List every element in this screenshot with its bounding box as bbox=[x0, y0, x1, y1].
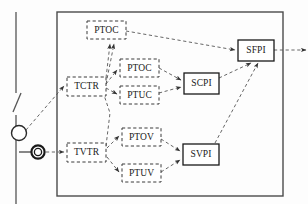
block-diagram-canvas: PTOC TCTR PTOC PTUC TVTR PTOV PTUV bbox=[0, 0, 308, 204]
node-tvtr[interactable]: TVTR bbox=[67, 143, 106, 162]
current-transformer-symbol bbox=[12, 126, 27, 141]
node-ptuv-label: PTUV bbox=[129, 168, 154, 178]
node-svpi-label: SVPI bbox=[191, 149, 212, 159]
edge-ptuc-to-scpi bbox=[159, 87, 181, 93]
node-ptov-label: PTOV bbox=[129, 132, 154, 142]
edge-svpi-to-sfpi bbox=[215, 63, 258, 143]
node-ptoc-top-label: PTOC bbox=[94, 25, 119, 35]
node-ptoc-top[interactable]: PTOC bbox=[87, 21, 126, 39]
node-tctr[interactable]: TCTR bbox=[67, 77, 106, 96]
node-svpi[interactable]: SVPI bbox=[183, 144, 219, 165]
voltage-transformer-symbol bbox=[31, 145, 44, 158]
edge-tvtr-to-ptuv bbox=[107, 157, 119, 172]
node-ptoc-2[interactable]: PTOC bbox=[120, 59, 159, 77]
node-scpi[interactable]: SCPI bbox=[184, 73, 219, 94]
node-ptuv[interactable]: PTUV bbox=[122, 164, 161, 182]
node-ptov[interactable]: PTOV bbox=[122, 128, 161, 146]
edge-tctr-to-ptuc bbox=[106, 88, 117, 94]
edge-ct-to-tctr bbox=[26, 86, 64, 130]
node-ptuc-label: PTUC bbox=[127, 90, 152, 100]
node-ptoc-2-label: PTOC bbox=[127, 63, 152, 73]
diagram-page: PTOC TCTR PTOC PTUC TVTR PTOV PTUV bbox=[0, 0, 308, 204]
busbar-line bbox=[13, 12, 21, 204]
edge-ptov-to-svpi bbox=[161, 139, 180, 151]
node-sfpi[interactable]: SFPI bbox=[238, 40, 274, 61]
node-ptuc[interactable]: PTUC bbox=[120, 86, 159, 104]
edge-ptuv-to-svpi bbox=[161, 160, 180, 172]
node-tvtr-label: TVTR bbox=[74, 147, 100, 157]
edge-scpi-to-sfpi bbox=[219, 63, 251, 78]
edge-ptoc-top-to-sfpi bbox=[126, 31, 235, 50]
edge-tvtr-to-ptov bbox=[107, 136, 119, 148]
node-sfpi-label: SFPI bbox=[246, 45, 265, 55]
node-tctr-label: TCTR bbox=[74, 81, 99, 91]
edge-ptoc2-to-scpi bbox=[159, 68, 181, 80]
node-scpi-label: SCPI bbox=[191, 78, 211, 88]
